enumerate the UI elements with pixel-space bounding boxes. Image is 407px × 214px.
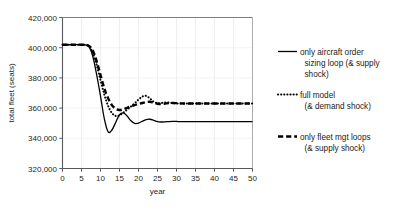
- legend-label-1: (& demand shock): [305, 102, 372, 111]
- x-tick-label: 40: [210, 174, 219, 183]
- y-tick-label: 340,000: [28, 134, 57, 143]
- y-tick-label: 420,000: [28, 14, 57, 23]
- y-tick-label: 380,000: [28, 74, 57, 83]
- x-tick-label: 50: [248, 174, 257, 183]
- chart-canvas: 320,000340,000360,000380,000400,000420,0…: [0, 0, 407, 214]
- x-tick-label: 45: [229, 174, 238, 183]
- fleet-seats-line-chart: 320,000340,000360,000380,000400,000420,0…: [0, 0, 407, 214]
- y-tick-label: 320,000: [28, 165, 57, 174]
- x-tick-label: 20: [134, 174, 143, 183]
- x-tick-label: 30: [172, 174, 181, 183]
- x-tick-label: 0: [60, 174, 65, 183]
- x-tick-label: 15: [115, 174, 124, 183]
- x-axis-title: year: [150, 187, 166, 196]
- y-axis-title: total fleet (seats): [7, 63, 16, 122]
- legend-label-0: shock): [305, 70, 329, 79]
- legend-label-2: only fleet mgt loops: [300, 133, 371, 142]
- x-tick-label: 10: [96, 174, 105, 183]
- x-tick-label: 35: [191, 174, 200, 183]
- x-tick-label: 5: [79, 174, 84, 183]
- legend-label-2: (& supply shock): [305, 144, 366, 153]
- legend: only aircraft ordersizing loop (& supply…: [278, 48, 380, 153]
- legend-label-0: sizing loop (& supply: [305, 59, 381, 68]
- legend-label-0: only aircraft order: [300, 48, 364, 57]
- legend-label-1: full model: [300, 91, 335, 100]
- y-tick-label: 360,000: [28, 104, 57, 113]
- x-tick-label: 25: [153, 174, 162, 183]
- y-tick-label: 400,000: [28, 44, 57, 53]
- gridlines: [63, 18, 253, 169]
